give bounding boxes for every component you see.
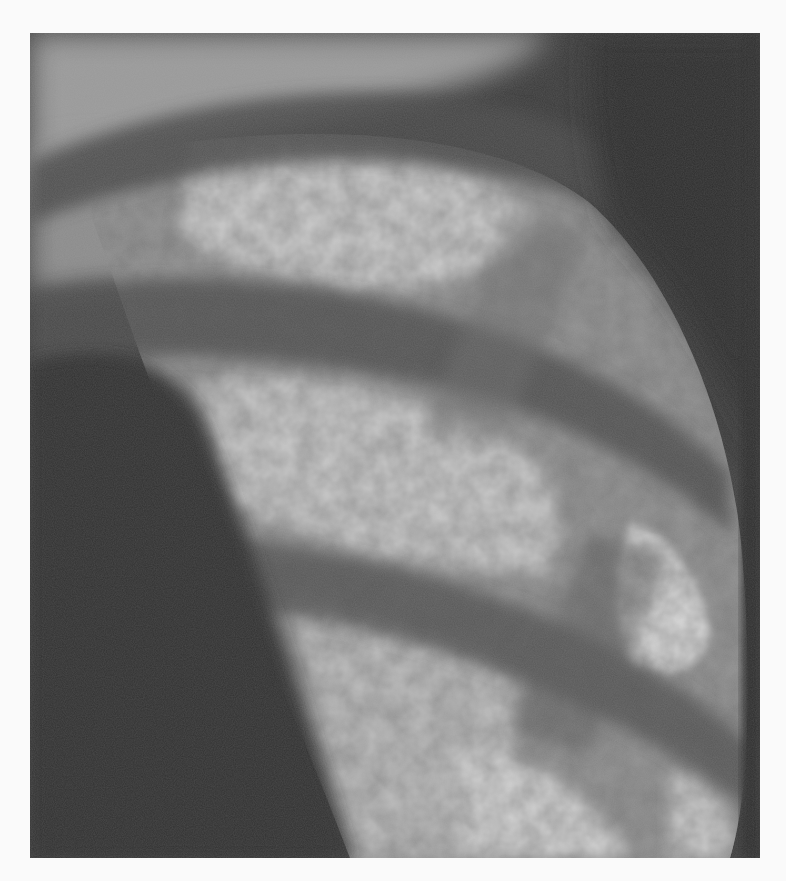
- radiograph-image: [30, 33, 760, 858]
- page: [0, 0, 786, 881]
- radiograph-rendering: [30, 33, 760, 858]
